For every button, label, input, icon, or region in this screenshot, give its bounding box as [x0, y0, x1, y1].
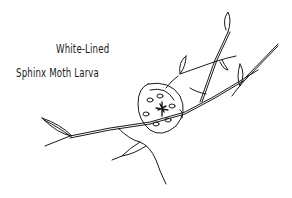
main-branch [70, 44, 278, 138]
leaf-left [42, 118, 72, 146]
upper-twigs [166, 12, 245, 102]
leaf-lower [112, 128, 166, 184]
branch-drawing [0, 0, 292, 198]
caterpillar [138, 83, 183, 133]
sketch-canvas: White-Lined Sphinx Moth Larva [0, 0, 292, 198]
